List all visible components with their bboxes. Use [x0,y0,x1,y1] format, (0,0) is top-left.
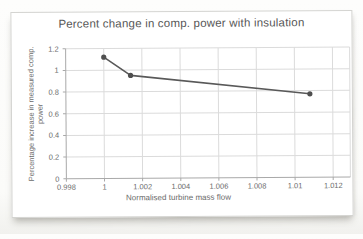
y-axis-title-line1: Percentage increase in measured comp. [26,47,36,182]
x-tick-label: 1.006 [199,183,239,191]
x-tick-label: 0.998 [46,184,86,192]
x-tick-label: 1.002 [123,183,163,191]
photo-page: Percent change in comp. power with insul… [0,0,363,234]
x-tick-label: 1.008 [237,182,277,190]
y-axis-title-line2: power [36,47,46,182]
x-tick-label: 1.012 [313,182,353,190]
x-tick-label: 1 [85,183,125,191]
x-tick-label: 1.004 [161,183,201,191]
x-tick-label: 1.01 [275,182,315,190]
chart-container: Percent change in comp. power with insul… [10,10,353,218]
y-axis-title: Percentage increase in measured comp. po… [26,47,46,182]
